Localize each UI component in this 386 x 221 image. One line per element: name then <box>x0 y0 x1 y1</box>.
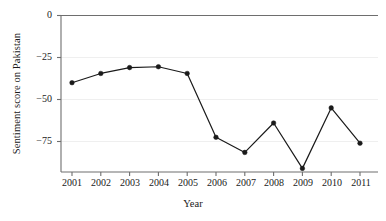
line-chart: Sentiment score on Pakistan Year 0 −25 −… <box>0 0 386 221</box>
gridlines <box>61 58 378 142</box>
plot-area <box>0 0 386 221</box>
series-line <box>72 67 360 169</box>
series-markers <box>70 64 363 170</box>
axis-ticks <box>57 16 360 177</box>
axis-lines <box>61 16 378 173</box>
